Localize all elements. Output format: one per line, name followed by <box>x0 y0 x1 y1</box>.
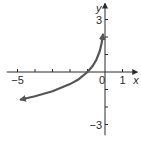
curve-line <box>21 35 103 100</box>
y-tick-label: −3 <box>89 119 102 131</box>
function-graph: −5013−3 x y <box>0 0 141 141</box>
x-tick-label: −5 <box>11 74 24 86</box>
series <box>21 35 103 100</box>
x-axis-label: x <box>132 74 139 86</box>
x-tick-label: 1 <box>119 74 125 86</box>
x-tick-label: 0 <box>99 74 105 86</box>
y-axis-label: y <box>95 2 103 14</box>
axes <box>7 4 138 136</box>
y-tick-label: 3 <box>96 14 102 26</box>
